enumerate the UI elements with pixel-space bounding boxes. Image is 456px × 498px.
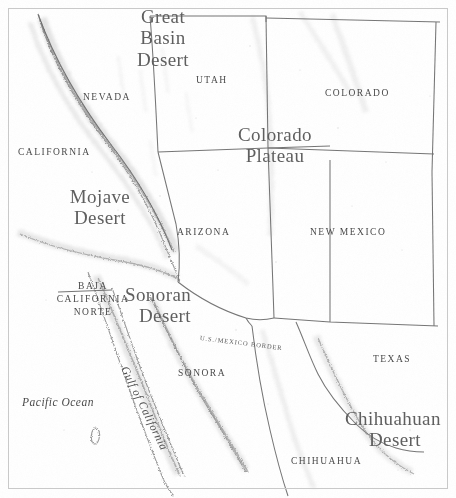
- label-line: Desert: [125, 305, 217, 326]
- map-label-us-mexico-border: U.S./MEXICO BORDER: [200, 334, 283, 351]
- map-label-california: CALIFORNIA: [18, 147, 91, 157]
- map-label-great-basin-desert: Great Basin Desert: [123, 6, 203, 70]
- label-line: NORTE: [56, 306, 130, 319]
- map-label-gulf-of-california: Gulf of California: [119, 364, 170, 452]
- label-line: CALIFORNIA: [56, 293, 130, 306]
- label-line: Colorado: [224, 124, 326, 145]
- map-label-sonoran-desert: Sonoran Desert: [125, 284, 217, 327]
- map-label-colorado-plateau: Colorado Plateau: [224, 124, 326, 167]
- label-line: Desert: [55, 207, 145, 228]
- map-label-chihuahuan-desert: Chihuahuan Desert: [345, 408, 453, 451]
- map-label-pacific-ocean: Pacific Ocean: [22, 396, 94, 408]
- map-label-utah: UTAH: [196, 75, 228, 85]
- map-label-chihuahua: CHIHUAHUA: [291, 456, 362, 466]
- map-label-new-mexico: NEW MEXICO: [310, 227, 386, 237]
- map-label-texas: TEXAS: [373, 354, 411, 364]
- label-line: Desert: [345, 429, 453, 450]
- label-line: Chihuahuan: [345, 408, 453, 429]
- map-canvas: Great Basin Desert Colorado Plateau Moja…: [0, 0, 456, 498]
- label-line: BAJA: [56, 280, 130, 293]
- map-label-sonora: SONORA: [178, 368, 226, 378]
- label-line: Great: [123, 6, 203, 27]
- label-line: Mojave: [55, 186, 145, 207]
- label-line: Plateau: [224, 145, 326, 166]
- map-label-arizona: ARIZONA: [177, 227, 230, 237]
- label-line: Basin: [123, 27, 203, 48]
- label-line: Desert: [123, 49, 203, 70]
- map-label-nevada: NEVADA: [83, 92, 131, 102]
- label-line: Sonoran: [125, 284, 217, 305]
- map-label-baja-california-norte: BAJA CALIFORNIA NORTE: [56, 280, 130, 318]
- map-label-mojave-desert: Mojave Desert: [55, 186, 145, 229]
- map-label-layer: Great Basin Desert Colorado Plateau Moja…: [0, 0, 456, 498]
- map-label-colorado: COLORADO: [325, 88, 390, 98]
